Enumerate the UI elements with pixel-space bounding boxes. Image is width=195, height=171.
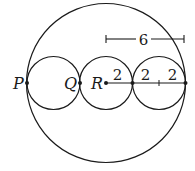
- point-p-dot: [25, 81, 29, 85]
- segment-label-2: 2: [141, 66, 151, 84]
- dimension-label: 6: [139, 31, 149, 49]
- label-q: Q: [64, 74, 77, 93]
- point-q-dot: [78, 81, 82, 85]
- edge-point-dot: [184, 81, 188, 85]
- point-r-dot: [104, 81, 108, 85]
- segment-label-1: 2: [113, 66, 123, 84]
- label-p: P: [12, 74, 24, 93]
- label-r: R: [90, 74, 103, 93]
- circle-diagram: 6 P Q R 2 2 2: [0, 0, 195, 171]
- tangent-point-dot: [131, 81, 135, 85]
- segment-label-3: 2: [168, 66, 178, 84]
